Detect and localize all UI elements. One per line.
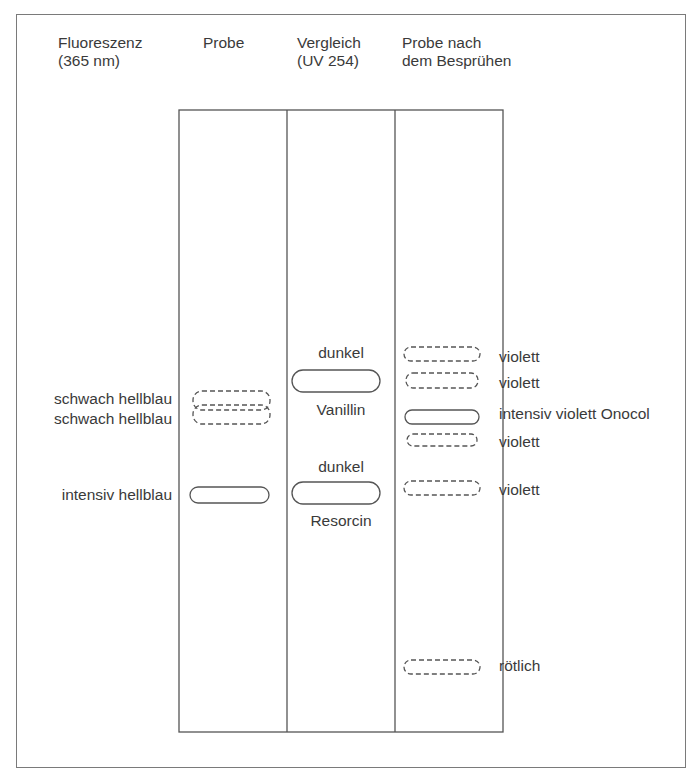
resorcin-label: Resorcin: [287, 512, 395, 530]
left-label-weak-1: schwach hellblau: [54, 390, 172, 408]
vanillin-dark-label: dunkel: [287, 344, 395, 362]
spot-sprayed-reddish: [404, 660, 480, 674]
spot-sprayed-violet-1: [404, 347, 480, 361]
resorcin-dark-label: dunkel: [287, 458, 395, 476]
right-label-onocol: intensiv violett Onocol: [499, 405, 650, 423]
right-label-violet-4: violett: [499, 481, 540, 499]
spot-sample-weak-2: [193, 405, 270, 424]
spot-sprayed-violet-3: [407, 434, 477, 446]
right-label-violet-2: violett: [499, 374, 540, 392]
vanillin-label: Vanillin: [287, 401, 395, 419]
right-label-violet-1: violett: [499, 348, 540, 366]
spot-sprayed-violet-4: [404, 481, 480, 495]
left-label-weak-2: schwach hellblau: [54, 410, 172, 428]
plate-outline: [179, 110, 503, 732]
left-label-intense: intensiv hellblau: [62, 486, 172, 504]
right-label-violet-3: violett: [499, 433, 540, 451]
spot-sprayed-violet-2: [406, 373, 478, 388]
spot-sample-intense: [190, 487, 269, 503]
right-label-reddish: rötlich: [499, 657, 540, 675]
spot-vanillin: [292, 370, 380, 392]
spot-sprayed-onocol: [405, 410, 479, 424]
spot-resorcin: [292, 482, 380, 504]
spot-sample-weak-1: [193, 391, 270, 410]
